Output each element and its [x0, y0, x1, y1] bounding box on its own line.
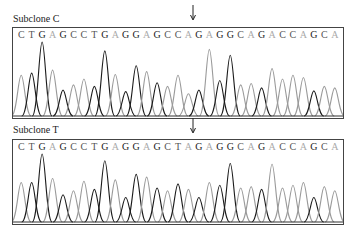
peak [220, 55, 240, 116]
chromatogram-subclone-c: CTGAGCCTGAGGAGCCAGAGGCAGACCAGCA [12, 27, 344, 119]
panel-title-subclone-t: Subclone T [13, 124, 59, 135]
panel-title-subclone-c: Subclone C [13, 13, 59, 24]
peak [95, 161, 115, 222]
peak [210, 80, 230, 116]
peak [95, 51, 115, 116]
peak [13, 183, 31, 222]
peak [220, 164, 240, 222]
trace-plot [13, 140, 343, 224]
peak [231, 188, 251, 222]
peak [231, 85, 251, 116]
trace-plot [13, 28, 343, 118]
peak [325, 88, 343, 116]
peak [252, 189, 272, 222]
peak [293, 78, 313, 116]
peak [325, 191, 343, 222]
peak [13, 75, 31, 116]
peak [53, 90, 73, 116]
peak [199, 49, 219, 116]
peak [32, 42, 52, 116]
peak [262, 164, 282, 222]
chromatogram-subclone-t: CTGAGCCTGAGGAGCTAGAGGCAGACCAGCA [12, 139, 344, 225]
peak [116, 198, 136, 222]
peak [179, 94, 199, 116]
peak [158, 191, 178, 222]
peak [32, 154, 52, 222]
